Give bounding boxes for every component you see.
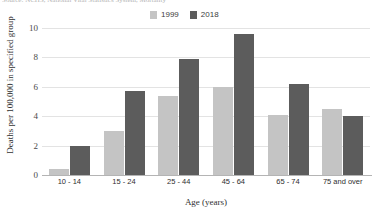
x-axis-labels: 10 - 1415 - 2425 - 4445 - 6465 - 7475 an…: [42, 177, 370, 186]
y-tick-label: 2: [34, 141, 39, 151]
bar-group: [97, 28, 152, 175]
x-tick-label: 25 - 44: [151, 177, 206, 186]
bar-groups: [42, 28, 370, 175]
x-tick-label: 10 - 14: [42, 177, 97, 186]
bar-group: [42, 28, 97, 175]
bar-group: [315, 28, 370, 175]
bar: [158, 96, 178, 175]
x-tick-label: 75 and over: [315, 177, 370, 186]
bar: [343, 116, 363, 175]
y-axis-title: Deaths per 100,000 in specified group: [5, 10, 15, 160]
legend-label-1999: 1999: [161, 11, 179, 19]
bar: [213, 87, 233, 175]
legend-entry-2018: 2018: [190, 11, 219, 19]
y-tick-label: 4: [34, 111, 39, 121]
bar-group: [151, 28, 206, 175]
y-tick-label: 6: [34, 82, 39, 92]
bar: [104, 131, 124, 175]
y-axis-ticks: 0246810: [20, 28, 40, 175]
bar-group: [261, 28, 316, 175]
bar: [289, 84, 309, 175]
bar: [268, 115, 288, 175]
x-axis-line: [42, 175, 372, 176]
source-note: Source: NCHS, National Vital Statistics …: [2, 0, 302, 4]
bar-group: [206, 28, 261, 175]
bar: [322, 109, 342, 175]
bar: [234, 34, 254, 175]
bar: [70, 146, 90, 175]
x-axis-title: Age (years): [42, 197, 370, 207]
x-tick-label: 45 - 64: [206, 177, 261, 186]
x-tick-label: 65 - 74: [261, 177, 316, 186]
bar: [125, 91, 145, 175]
y-tick-label: 0: [34, 170, 39, 180]
legend-swatch-2018: [190, 11, 197, 19]
y-tick-label: 10: [29, 23, 38, 33]
legend-swatch-1999: [150, 11, 157, 19]
x-tick-label: 15 - 24: [97, 177, 152, 186]
legend-label-2018: 2018: [201, 11, 219, 19]
y-tick-label: 8: [34, 52, 39, 62]
legend-entry-1999: 1999: [150, 11, 179, 19]
bar: [179, 59, 199, 175]
chart-legend: 1999 2018: [150, 8, 219, 21]
bar: [49, 169, 69, 175]
